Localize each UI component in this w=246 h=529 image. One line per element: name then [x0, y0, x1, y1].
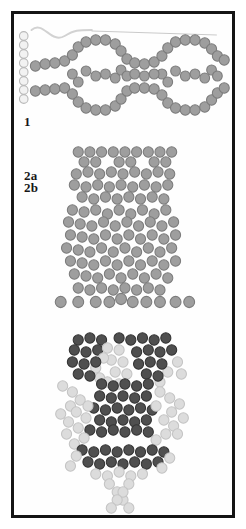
bead: [58, 381, 68, 391]
bead: [167, 407, 177, 417]
bead: [167, 345, 177, 355]
bead: [124, 256, 134, 266]
bead: [159, 260, 169, 270]
bead: [79, 433, 89, 443]
bead: [91, 469, 101, 479]
bead: [110, 221, 120, 231]
bead: [122, 369, 132, 379]
bead: [75, 219, 85, 229]
bead: [219, 55, 229, 65]
bead: [143, 345, 153, 355]
bead: [149, 157, 159, 167]
bead: [124, 503, 134, 513]
bead: [130, 167, 140, 177]
bead: [106, 167, 116, 177]
bead-group-light-mesh-right: [151, 387, 188, 445]
bead: [85, 371, 95, 381]
bead: [170, 256, 180, 266]
bead: [151, 435, 161, 445]
bead: [151, 269, 161, 279]
bead: [73, 77, 83, 87]
bead: [147, 230, 157, 240]
bead: [100, 405, 110, 415]
bead: [165, 393, 175, 403]
bead: [108, 147, 118, 157]
bead: [127, 296, 138, 307]
bead: [108, 247, 118, 257]
bead: [140, 71, 150, 81]
bead-group-left-hollow-column: [19, 32, 28, 104]
bead: [161, 429, 171, 439]
bead: [170, 37, 180, 47]
bead: [132, 347, 142, 357]
bead: [19, 95, 28, 104]
bead: [155, 347, 165, 357]
bead-group-lattice-chain-lower: [30, 83, 229, 115]
bead: [19, 41, 28, 50]
bead: [151, 401, 161, 411]
bead-group-dark-mesh-center: [85, 391, 157, 437]
bead: [147, 256, 157, 266]
bead: [165, 169, 175, 179]
bead: [161, 157, 171, 167]
bead: [143, 427, 153, 437]
bead: [89, 260, 99, 270]
bead: [104, 269, 114, 279]
bead: [77, 232, 87, 242]
bead: [141, 391, 151, 401]
bead: [73, 245, 83, 255]
bead: [135, 234, 145, 244]
bead: [85, 285, 95, 295]
bead: [120, 243, 130, 253]
bead: [65, 461, 75, 471]
bead: [130, 83, 140, 93]
bead: [143, 283, 153, 293]
bead: [114, 467, 124, 477]
bead: [95, 459, 105, 469]
bead: [139, 180, 149, 190]
bead: [63, 417, 73, 427]
bead: [118, 415, 128, 425]
bead: [19, 59, 28, 68]
bead: [112, 447, 122, 457]
bead: [93, 273, 103, 283]
bead: [114, 205, 124, 215]
panel-1-diagram: [14, 14, 232, 142]
bead: [170, 230, 180, 240]
bead: [120, 427, 130, 437]
bead: [118, 357, 128, 367]
bead: [128, 182, 138, 192]
bead: [135, 194, 145, 204]
bead: [143, 379, 153, 389]
bead: [81, 66, 91, 76]
bead: [19, 32, 28, 41]
bead: [155, 296, 166, 307]
bead: [155, 147, 165, 157]
bead: [149, 335, 159, 345]
bead: [137, 205, 147, 215]
bead: [157, 359, 167, 369]
bead: [139, 59, 149, 69]
bead: [124, 405, 134, 415]
bead: [61, 429, 71, 439]
bead: [40, 85, 50, 95]
bead: [134, 221, 144, 231]
bead: [77, 258, 87, 268]
bead: [163, 180, 173, 190]
bead: [97, 379, 107, 389]
bead: [79, 207, 89, 217]
bead: [132, 147, 142, 157]
bead: [172, 357, 182, 367]
bead: [83, 167, 93, 177]
figure-frame: 1 2a 2b: [11, 11, 235, 518]
bead: [90, 296, 101, 307]
bead: [200, 73, 210, 83]
bead: [163, 77, 173, 87]
bead: [147, 192, 157, 202]
bead: [112, 194, 122, 204]
bead-group-light-mesh-left: [56, 381, 93, 449]
bead: [139, 273, 149, 283]
bead: [97, 427, 107, 437]
bead: [141, 415, 151, 425]
bead: [137, 469, 147, 479]
